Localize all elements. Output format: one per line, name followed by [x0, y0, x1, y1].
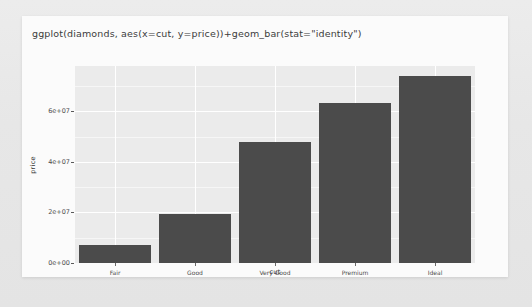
bar-very-good	[239, 142, 311, 264]
page-title: ggplot(diamonds, aes(x=cut, y=price))+ge…	[32, 28, 362, 39]
x-axis-title: cut	[75, 268, 475, 276]
y-tick-label: 0e+00	[48, 259, 70, 267]
bar-ideal	[399, 76, 471, 263]
y-tick-label: 2e+07	[48, 208, 70, 216]
x-tick-mark	[355, 263, 356, 266]
y-tick-mark	[71, 111, 74, 112]
x-tick-mark	[115, 263, 116, 266]
y-tick-label: 4e+07	[48, 158, 70, 166]
bar-fair	[79, 245, 151, 263]
x-tick-mark	[435, 263, 436, 266]
plot-card: ggplot(diamonds, aes(x=cut, y=price))+ge…	[22, 16, 508, 277]
ggplot-figure: price 0e+002e+074e+076e+07 FairGoodVery …	[22, 46, 508, 277]
y-tick-label: 6e+07	[48, 107, 70, 115]
bar-good	[159, 214, 231, 263]
y-tick-mark	[71, 162, 74, 163]
gridline-vertical-major	[115, 66, 116, 263]
y-axis-tick-labels: 0e+002e+074e+076e+07	[22, 66, 70, 263]
plot-panel	[75, 66, 475, 263]
x-tick-mark	[195, 263, 196, 266]
y-tick-mark	[71, 263, 74, 264]
bar-premium	[319, 103, 391, 263]
x-tick-mark	[275, 263, 276, 266]
y-tick-mark	[71, 212, 74, 213]
